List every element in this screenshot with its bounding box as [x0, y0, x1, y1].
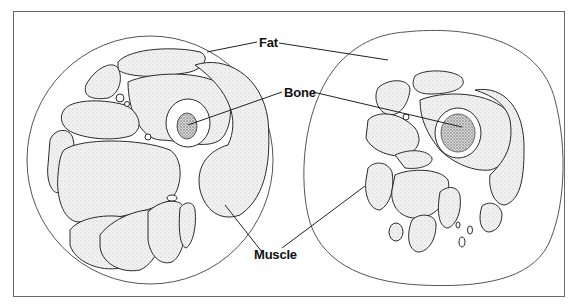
left-vessel	[125, 102, 130, 107]
left-cross-section	[27, 36, 273, 284]
left-vessel	[145, 134, 151, 140]
right-vessel	[403, 114, 409, 120]
right-muscle-small	[389, 223, 403, 241]
left-vessel	[167, 195, 177, 201]
left-bone-marrow	[177, 113, 197, 139]
right-vessel	[468, 226, 473, 234]
right-vessel	[456, 222, 460, 228]
fat-label: Fat	[259, 35, 278, 50]
muscle-label: Muscle	[254, 247, 297, 262]
right-cross-section	[304, 30, 563, 285]
bone-label: Bone	[284, 85, 316, 100]
right-bone-marrow	[441, 114, 475, 152]
fat-leader-left	[207, 42, 257, 52]
right-vessel	[459, 237, 465, 247]
right-muscle-top	[413, 71, 463, 94]
left-vessel	[116, 94, 124, 102]
